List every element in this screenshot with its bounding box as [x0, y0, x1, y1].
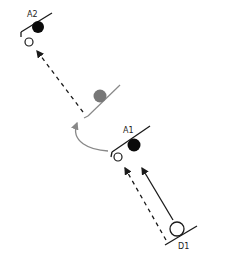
intermediate-surface-tick [84, 116, 88, 118]
a2-hollow-ball-icon [25, 38, 33, 46]
a2-label: A2 [27, 10, 38, 19]
node-a1: A1 [111, 126, 150, 161]
a1-label: A1 [123, 126, 134, 135]
dashed-arrow-to-a1 [125, 168, 166, 240]
node-d1: D1 [165, 222, 197, 251]
d1-label: D1 [178, 242, 189, 251]
gray-ball-icon [94, 90, 107, 103]
a1-ball-icon [128, 139, 141, 152]
node-intermediate [84, 85, 120, 118]
node-a2: A2 [21, 10, 52, 46]
a1-hollow-ball-icon [114, 153, 122, 161]
d1-hollow-ball-icon [170, 222, 184, 236]
a2-ball-icon [32, 21, 44, 33]
dashed-arrow-to-a2 [37, 51, 83, 112]
reflection-diagram: A2 A1 D1 [0, 0, 229, 256]
curved-arrow-to-intermediate [76, 123, 108, 151]
a1-surface-tick [111, 152, 112, 157]
solid-arrow-to-a1 [142, 168, 173, 220]
